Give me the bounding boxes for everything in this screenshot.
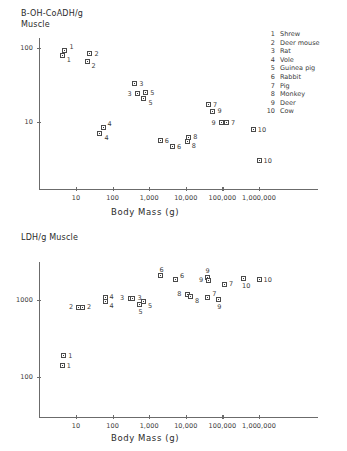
legend-item-number: 1 xyxy=(262,30,275,38)
data-point-label: 8 xyxy=(195,297,199,305)
x-axis-line xyxy=(39,417,318,418)
data-point-label: 3 xyxy=(139,80,143,88)
y-axis-tick xyxy=(37,48,41,49)
data-point xyxy=(143,90,148,95)
data-point xyxy=(224,120,229,125)
y-axis-tick xyxy=(37,377,41,378)
y-axis-tick-label: 10 xyxy=(5,118,33,126)
data-point xyxy=(222,282,227,287)
data-point xyxy=(141,96,146,101)
x-axis-title-boh-coadh: Body Mass (g) xyxy=(55,207,235,217)
data-point-label: 1 xyxy=(68,352,72,360)
data-point xyxy=(257,277,262,282)
data-point xyxy=(188,294,193,299)
data-point-label: 5 xyxy=(138,308,142,316)
y-axis-tick xyxy=(37,122,41,123)
data-point xyxy=(61,353,66,358)
data-point-label: 5 xyxy=(150,89,154,97)
legend-item-number: 7 xyxy=(262,82,275,90)
data-point-label: 2 xyxy=(94,50,98,58)
data-point-label: 6 xyxy=(180,272,184,280)
data-point xyxy=(216,297,221,302)
legend-item-label: Vole xyxy=(280,56,294,64)
data-point-label: 1 xyxy=(67,362,71,370)
data-point xyxy=(257,158,262,163)
species-legend: 1Shrew2Deer mouse3Rat4Vole5Guinea pig6Ra… xyxy=(262,30,344,118)
x-axis-tick xyxy=(186,187,187,191)
data-point xyxy=(80,305,85,310)
legend-item-label: Monkey xyxy=(280,90,305,98)
y-axis-line xyxy=(39,262,40,417)
data-point xyxy=(132,81,137,86)
data-point-label: 7 xyxy=(231,119,235,127)
data-point-label: 6 xyxy=(159,266,163,274)
data-point xyxy=(135,91,140,96)
y-axis-tick-label: 100 xyxy=(5,373,33,381)
legend-item-number: 10 xyxy=(262,107,275,115)
data-point-label: 9 xyxy=(217,303,221,311)
data-point-label: 2 xyxy=(69,303,73,311)
data-point xyxy=(85,59,90,64)
data-point-label: 4 xyxy=(110,293,114,301)
data-point-label: 7 xyxy=(229,280,233,288)
x-axis-tick xyxy=(149,415,150,419)
data-point-label: 10 xyxy=(264,157,272,165)
data-point xyxy=(173,277,178,282)
data-point xyxy=(103,299,108,304)
data-point xyxy=(87,51,92,56)
data-point-label: 10 xyxy=(264,276,272,284)
data-point xyxy=(158,273,163,278)
legend-item-number: 2 xyxy=(262,39,275,47)
data-point xyxy=(130,296,135,301)
data-point-label: 9 xyxy=(217,107,221,115)
data-point-label: 9 xyxy=(212,119,216,127)
data-point-label: 10 xyxy=(258,126,266,134)
data-point-label: 9 xyxy=(199,276,203,284)
x-axis-tick xyxy=(259,415,260,419)
data-point xyxy=(210,109,215,114)
legend-item-number: 9 xyxy=(262,99,275,107)
data-point xyxy=(206,278,211,283)
legend-item-number: 5 xyxy=(262,64,275,72)
legend-item-label: Shrew xyxy=(280,30,300,38)
data-point xyxy=(60,363,65,368)
legend-item-label: Deer xyxy=(280,99,296,107)
data-point-label: 10 xyxy=(242,282,250,290)
y-axis-tick xyxy=(37,300,41,301)
x-axis-line xyxy=(39,189,318,190)
data-point-label: 3 xyxy=(120,294,124,302)
legend-item-label: Deer mouse xyxy=(280,39,320,47)
x-axis-tick xyxy=(222,415,223,419)
legend-item-label: Guinea pig xyxy=(280,64,315,72)
data-point xyxy=(251,127,256,132)
data-point xyxy=(60,53,65,58)
legend-item-label: Rat xyxy=(280,47,291,55)
data-point xyxy=(97,131,102,136)
x-axis-tick xyxy=(149,187,150,191)
y-axis-tick-label: 100 xyxy=(5,44,33,52)
data-point-label: 6 xyxy=(177,143,181,151)
y-axis-line xyxy=(39,38,40,189)
data-point-label: 9 xyxy=(206,267,210,275)
data-point-label: 2 xyxy=(92,62,96,70)
legend-item-number: 8 xyxy=(262,90,275,98)
legend-item-label: Rabbit xyxy=(280,73,301,81)
y-axis-tick-label: 1000 xyxy=(5,296,33,304)
data-point-label: 5 xyxy=(148,99,152,107)
x-axis-tick-label: 1,000,000 xyxy=(233,194,285,202)
x-axis-tick xyxy=(113,187,114,191)
x-axis-title-ldh: Body Mass (g) xyxy=(55,433,235,443)
x-axis-tick xyxy=(259,187,260,191)
plot-area-ldh: 1001000101001,00010,000100,0001,000,0006… xyxy=(0,225,347,451)
data-point-label: 1 xyxy=(69,43,73,51)
legend-item-label: Pig xyxy=(280,82,290,90)
data-point xyxy=(206,102,211,107)
data-point-label: 8 xyxy=(177,290,181,298)
data-point xyxy=(185,139,190,144)
data-point xyxy=(205,295,210,300)
data-point-label: 4 xyxy=(110,302,114,310)
data-point xyxy=(158,138,163,143)
legend-item: 10Cow xyxy=(262,107,344,116)
data-point-label: 5 xyxy=(148,302,152,310)
data-point-label: 1 xyxy=(67,56,71,64)
